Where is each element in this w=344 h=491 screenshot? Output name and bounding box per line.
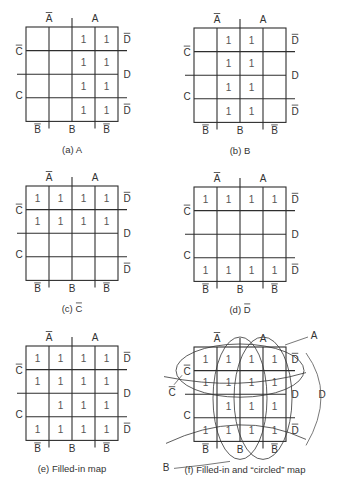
cell-one: 1	[104, 57, 110, 68]
kmap-d	[185, 178, 295, 288]
label-b-bar-right: B	[271, 444, 278, 455]
cell-one: 1	[81, 216, 87, 227]
circle-d-bar-bottom	[166, 425, 306, 444]
label-d: D	[291, 389, 298, 400]
cell-one: 1	[249, 35, 255, 46]
cell-one: 1	[249, 58, 255, 69]
cell-one: 1	[272, 425, 278, 436]
label-d: D	[123, 228, 130, 239]
cell-one: 1	[104, 105, 110, 116]
cell-one: 1	[81, 353, 87, 364]
caption-d: (d) D	[229, 304, 250, 315]
cell-one: 1	[226, 401, 232, 412]
caption-e: (e) Filled-in map	[38, 463, 107, 474]
label-d-bar-top: D	[123, 34, 130, 45]
callout-b: B	[163, 462, 170, 473]
cell-one: 1	[203, 354, 209, 365]
cell-one: 1	[35, 353, 41, 364]
cell-one: 1	[35, 376, 41, 387]
caption-b: (b) B	[230, 145, 251, 156]
cell-one: 1	[81, 424, 87, 435]
label-b-bar-left: B	[202, 444, 209, 455]
cell-one: 1	[35, 216, 41, 227]
cell-one: 1	[81, 400, 87, 411]
kmap-c	[17, 177, 127, 287]
cell-one: 1	[81, 34, 87, 45]
cell-one: 1	[58, 376, 64, 387]
label-d-bar-top: D	[291, 194, 298, 205]
label-d-bar-bottom: D	[123, 105, 130, 116]
callout-a: A	[311, 330, 318, 341]
kmap-f	[185, 338, 295, 448]
label-c-bar: C	[183, 47, 190, 58]
label-d-bar-bottom: D	[291, 106, 298, 117]
cell-one: 1	[249, 106, 255, 117]
label-b: B	[237, 444, 244, 455]
label-d: D	[123, 69, 130, 80]
cell-one: 1	[58, 193, 64, 204]
label-a-bar: A	[214, 333, 221, 344]
cell-one: 1	[35, 424, 41, 435]
cell-one: 1	[249, 401, 255, 412]
label-a-bar: A	[46, 172, 53, 183]
label-d-bar-bottom: D	[123, 264, 130, 275]
label-c: C	[183, 250, 190, 261]
cell-one: 1	[226, 106, 232, 117]
label-b-bar-right: B	[271, 125, 278, 136]
cell-one: 1	[249, 194, 255, 205]
label-d-bar-top: D	[291, 35, 298, 46]
cell-one: 1	[104, 34, 110, 45]
label-c-bar: C	[183, 366, 190, 377]
label-b-bar-left: B	[34, 283, 41, 294]
label-a-bar: A	[46, 13, 53, 24]
kmap-a	[17, 18, 127, 128]
label-c-bar: C	[15, 205, 22, 216]
cell-one: 1	[249, 82, 255, 93]
cell-one: 1	[81, 193, 87, 204]
label-a-bar: A	[214, 14, 221, 25]
label-c: C	[183, 410, 190, 421]
cell-one: 1	[226, 58, 232, 69]
caption-f: (f) Filled-in and “circled” map	[185, 464, 306, 475]
label-b-bar-right: B	[103, 283, 110, 294]
label-b: B	[69, 283, 76, 294]
label-d: D	[291, 229, 298, 240]
label-b-bar-left: B	[34, 443, 41, 454]
label-a: A	[260, 333, 267, 344]
label-c: C	[15, 409, 22, 420]
label-b-bar-left: B	[202, 284, 209, 295]
label-b-bar-right: B	[103, 443, 110, 454]
caption-a: (a) A	[62, 144, 83, 155]
cell-one: 1	[272, 401, 278, 412]
callout-c-bar: C	[168, 387, 175, 398]
cell-one: 1	[226, 354, 232, 365]
label-b: B	[69, 124, 76, 135]
cell-one: 1	[104, 376, 110, 387]
label-a: A	[92, 332, 99, 343]
cell-one: 1	[249, 354, 255, 365]
callout-d: D	[318, 389, 325, 400]
kmap-e	[17, 337, 127, 447]
karnaugh-map-figure: AACCDDDBBB11111111(a) AAACCDDDBBB1111111…	[0, 0, 344, 491]
label-a: A	[92, 172, 99, 183]
cell-one: 1	[81, 57, 87, 68]
cell-one: 1	[226, 265, 232, 276]
cell-one: 1	[226, 35, 232, 46]
label-c-bar: C	[183, 206, 190, 217]
label-a: A	[260, 14, 267, 25]
label-d-bar-top: D	[123, 353, 130, 364]
label-a-bar: A	[46, 332, 53, 343]
label-d-bar-bottom: D	[123, 424, 130, 435]
label-d-bar-top: D	[123, 193, 130, 204]
label-b-bar-right: B	[103, 124, 110, 135]
cell-one: 1	[203, 265, 209, 276]
label-b-bar-left: B	[202, 125, 209, 136]
label-c-bar: C	[15, 46, 22, 57]
label-c: C	[15, 90, 22, 101]
label-b: B	[237, 284, 244, 295]
cell-one: 1	[104, 193, 110, 204]
callout-a-arrow	[285, 337, 308, 345]
label-c-bar: C	[15, 365, 22, 376]
cell-one: 1	[58, 424, 64, 435]
cell-one: 1	[104, 400, 110, 411]
